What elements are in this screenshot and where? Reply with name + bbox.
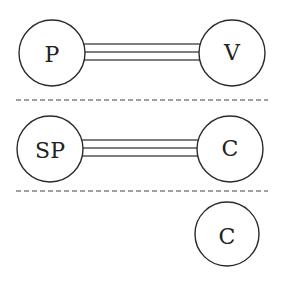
node-sp-label: SP bbox=[35, 138, 65, 163]
node-c-label: C bbox=[222, 136, 239, 161]
node-c-single-label: C bbox=[219, 224, 236, 249]
row-2: SP C bbox=[17, 116, 263, 182]
row-1: P V bbox=[19, 20, 265, 86]
row-3: C bbox=[195, 202, 259, 266]
node-p-label: P bbox=[45, 42, 60, 67]
node-v-label: V bbox=[223, 40, 241, 65]
diagram-canvas: P V SP C C bbox=[0, 0, 285, 287]
